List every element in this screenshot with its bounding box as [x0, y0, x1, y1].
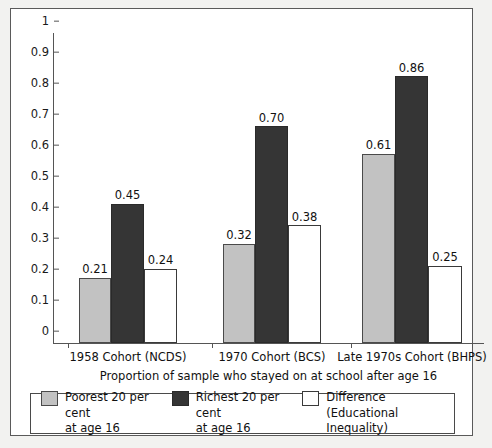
bar-group-1970: 0.32 0.70 0.38 1970 Cohort (BCS)	[223, 33, 321, 343]
y-axis-tick-0.4: 0.4	[31, 202, 54, 214]
legend-label-richest: Richest 20 per cent at age 16	[196, 390, 288, 437]
bar-poorest-late1970s[interactable]: 0.61	[362, 154, 395, 343]
legend-item-poorest[interactable]: Poorest 20 per cent at age 16	[41, 390, 157, 437]
bar-poorest-1970[interactable]: 0.32	[223, 244, 255, 343]
y-axis-tick-0.6: 0.6	[31, 140, 54, 152]
y-tick-mark	[54, 114, 59, 115]
x-tick-mark	[472, 343, 473, 348]
y-tick-mark	[54, 238, 59, 239]
legend-label-poorest: Poorest 20 per cent at age 16	[65, 390, 157, 437]
bar-difference-late1970s[interactable]: 0.25	[428, 266, 462, 344]
x-tick-mark	[68, 343, 69, 348]
y-axis-tick-0.9: 0.9	[31, 47, 54, 59]
y-tick-label: 0.1	[31, 295, 54, 307]
y-tick-label: 0.9	[31, 47, 54, 59]
bar-richest-1958[interactable]: 0.45	[111, 204, 144, 344]
y-tick-mark	[54, 331, 59, 332]
bar-value-label: 0.21	[82, 264, 108, 276]
y-axis-tick-0.1: 0.1	[31, 295, 54, 307]
x-axis-title: Proportion of sample who stayed on at sc…	[53, 371, 484, 383]
chart-legend: Poorest 20 per cent at age 16 Richest 20…	[30, 393, 455, 434]
legend-swatch-poorest-icon	[41, 391, 58, 406]
bar-group-1958: 0.21 0.45 0.24 1958 Cohort (NCDS)	[79, 33, 177, 343]
bar-difference-1970[interactable]: 0.38	[288, 225, 321, 343]
legend-label-difference: Difference (Educational Inequality)	[326, 390, 439, 437]
y-tick-label: 0.6	[31, 140, 54, 152]
bar-value-label: 0.61	[366, 140, 392, 152]
bar-value-label: 0.38	[292, 212, 318, 224]
y-tick-mark	[54, 300, 59, 301]
y-tick-mark	[54, 207, 59, 208]
bar-value-label: 0.24	[148, 255, 174, 267]
page-background: 0 0.1 0.2 0.3 0.4 0.5 0.6 0.7 0.8 0.9 1 …	[0, 0, 492, 448]
y-tick-label: 0.3	[31, 233, 54, 245]
bar-value-label: 0.70	[259, 113, 285, 125]
bar-value-label: 0.45	[115, 190, 141, 202]
y-axis-tick-1: 1	[42, 16, 54, 28]
legend-swatch-richest-icon	[172, 391, 189, 406]
y-axis-tick-0.7: 0.7	[31, 109, 54, 121]
y-tick-label: 1	[42, 16, 54, 28]
bar-value-label: 0.32	[226, 230, 252, 242]
legend-swatch-difference-icon	[302, 391, 319, 406]
legend-item-richest[interactable]: Richest 20 per cent at age 16	[172, 390, 288, 437]
legend-item-difference[interactable]: Difference (Educational Inequality)	[302, 390, 439, 437]
y-tick-mark	[54, 145, 59, 146]
y-tick-mark	[54, 52, 59, 53]
bar-value-label: 0.86	[399, 63, 425, 75]
y-axis-tick-0.2: 0.2	[31, 264, 54, 276]
bar-difference-1958[interactable]: 0.24	[144, 269, 177, 343]
y-axis-tick-0.8: 0.8	[31, 78, 54, 90]
x-axis-category-label-late1970s: Late 1970s Cohort (BHPS)	[337, 352, 487, 364]
y-axis-tick-0.5: 0.5	[31, 171, 54, 183]
bar-richest-late1970s[interactable]: 0.86	[395, 76, 428, 343]
x-tick-mark	[212, 343, 213, 348]
bar-group-late1970s: 0.61 0.86 0.25 Late 1970s Cohort (BHPS)	[362, 33, 462, 343]
y-axis-tick-0.3: 0.3	[31, 233, 54, 245]
y-tick-mark	[54, 176, 59, 177]
bar-poorest-1958[interactable]: 0.21	[79, 278, 111, 343]
chart-plot-area: 0 0.1 0.2 0.3 0.4 0.5 0.6 0.7 0.8 0.9 1 …	[53, 33, 484, 344]
y-tick-label: 0.8	[31, 78, 54, 90]
bar-value-label: 0.25	[432, 252, 458, 264]
y-tick-mark	[54, 83, 59, 84]
y-tick-label: 0.5	[31, 171, 54, 183]
y-tick-label: 0.4	[31, 202, 54, 214]
bar-richest-1970[interactable]: 0.70	[255, 126, 288, 343]
y-tick-label: 0.2	[31, 264, 54, 276]
y-axis-tick-0: 0	[42, 326, 54, 338]
figure-frame: 0 0.1 0.2 0.3 0.4 0.5 0.6 0.7 0.8 0.9 1 …	[10, 8, 473, 436]
y-tick-label: 0	[42, 326, 54, 338]
y-tick-mark	[54, 21, 59, 22]
x-axis-category-label-1970: 1970 Cohort (BCS)	[218, 352, 325, 364]
x-tick-mark	[351, 343, 352, 348]
y-tick-mark	[54, 269, 59, 270]
x-axis-category-label-1958: 1958 Cohort (NCDS)	[70, 352, 187, 364]
y-tick-label: 0.7	[31, 109, 54, 121]
